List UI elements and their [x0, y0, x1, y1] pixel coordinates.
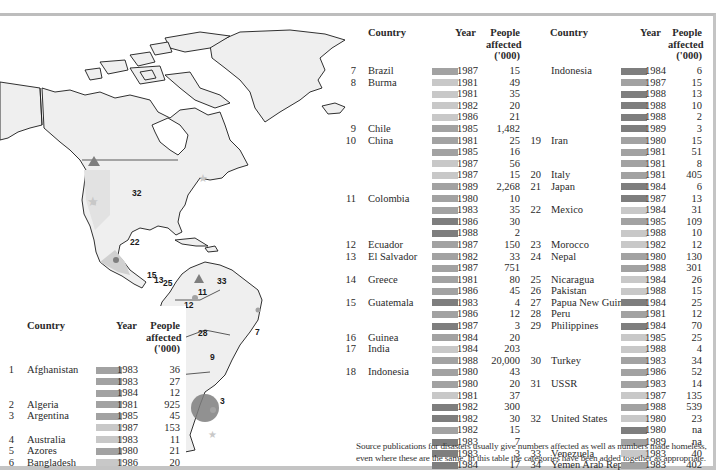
shade-bar	[432, 299, 458, 306]
table-row: 22Mexico198431	[525, 204, 715, 216]
row-year: 1981	[117, 399, 138, 411]
shade-bar	[621, 125, 647, 132]
row-number: 12	[340, 239, 356, 251]
row-value: 36	[146, 364, 180, 376]
shade-bar	[432, 207, 458, 214]
table-row: 19892,268	[340, 181, 530, 193]
table-row: 19Iran198015	[525, 135, 715, 147]
row-country: Philippines	[551, 320, 598, 332]
row-country: Brazil	[368, 65, 394, 77]
row-value: 2	[486, 227, 520, 239]
table-row: 198810	[525, 100, 715, 112]
row-year: 1984	[457, 343, 478, 355]
footnote: Source publications for disasters usuall…	[356, 441, 718, 464]
row-year: 1987	[457, 320, 478, 332]
row-year: 1988	[457, 227, 478, 239]
table-row: 198630	[340, 216, 530, 228]
row-value: 56	[486, 158, 520, 170]
shade-bar	[432, 149, 458, 156]
row-value: 21	[486, 111, 520, 123]
row-year: 1985	[645, 216, 666, 228]
row-value: 10	[668, 227, 702, 239]
row-year: 1981	[645, 158, 666, 170]
row-country: Burma	[368, 77, 397, 89]
shade-bar	[621, 102, 647, 109]
row-country: Morocco	[551, 239, 589, 251]
shade-bar	[432, 102, 458, 109]
row-year: 1981	[457, 135, 478, 147]
row-number: 9	[340, 123, 356, 135]
row-value: 16	[486, 146, 520, 158]
row-year: 1981	[645, 146, 666, 158]
row-year: 1988	[645, 262, 666, 274]
row-year: 1981	[457, 274, 478, 286]
shade-bar	[621, 149, 647, 156]
row-year: 1988	[645, 88, 666, 100]
table-row: 198820,000	[340, 355, 530, 367]
row-value: 35	[486, 204, 520, 216]
row-number: 31	[525, 378, 541, 390]
table-row: 28Peru198112	[525, 308, 715, 320]
row-value: 30	[486, 413, 520, 425]
row-country: Indonesia	[551, 65, 592, 77]
shade-bar	[621, 114, 647, 121]
table-row: 26Pakistan198815	[525, 285, 715, 297]
row-value: 35	[486, 88, 520, 100]
row-value: 4	[668, 343, 702, 355]
table-row: 19893	[525, 123, 715, 135]
shade-bar	[432, 172, 458, 179]
row-year: 1987	[645, 193, 666, 205]
row-value: 23	[668, 413, 702, 425]
row-year: 1987	[457, 262, 478, 274]
row-value: 150	[486, 239, 520, 251]
row-year: 1988	[645, 343, 666, 355]
row-year: 1980	[645, 413, 666, 425]
row-number: 28	[525, 308, 541, 320]
row-year: 1986	[457, 216, 478, 228]
svg-text:11: 11	[198, 287, 207, 297]
row-number: 21	[525, 181, 541, 193]
row-year: 1980	[457, 378, 478, 390]
table-row: 198715	[525, 77, 715, 89]
row-year: 1980	[645, 135, 666, 147]
table-row: 16Guinea198420	[340, 332, 530, 344]
row-year: 1980	[645, 424, 666, 436]
table-row: 1980na	[525, 424, 715, 436]
row-country: Papua New Guin.	[551, 297, 625, 309]
shade-bar	[432, 114, 458, 121]
shade-bar	[432, 218, 458, 225]
table-row: 19818	[525, 158, 715, 170]
row-value: 12	[668, 308, 702, 320]
table-row: Indonesia19846	[525, 65, 715, 77]
row-year: 1982	[645, 239, 666, 251]
table-row: 17India1984203	[340, 343, 530, 355]
row-value: 80	[486, 274, 520, 286]
row-year: 1983	[457, 297, 478, 309]
table-row: 20Italy1981405	[525, 169, 715, 181]
row-number: 3	[0, 410, 14, 422]
table-row: 198215	[340, 424, 530, 436]
row-country: Turkey	[551, 355, 581, 367]
row-country: Algeria	[27, 399, 59, 411]
table-row: 13El Salvador198233	[340, 251, 530, 263]
row-value: 20	[486, 332, 520, 344]
row-value: 33	[486, 251, 520, 263]
row-value: 25	[486, 135, 520, 147]
table-row: 198645	[340, 285, 530, 297]
row-number: 32	[525, 413, 541, 425]
table-row: 25Nicaragua198426	[525, 274, 715, 286]
row-country: Guatemala	[368, 297, 413, 309]
row-value: 3	[486, 320, 520, 332]
row-year: 1984	[645, 320, 666, 332]
shade-bar	[621, 381, 647, 388]
row-number: 23	[525, 239, 541, 251]
shade-bar	[432, 125, 458, 132]
row-country: United States	[551, 413, 607, 425]
table-row: 21Japan19846	[525, 181, 715, 193]
row-year: 1981	[645, 308, 666, 320]
row-number: 8	[340, 77, 356, 89]
table-row: 18Indonesia198043	[340, 366, 530, 378]
table-row: 198652	[525, 366, 715, 378]
table-row: 3Argentina198545	[0, 410, 180, 422]
row-year: 1983	[117, 434, 138, 446]
